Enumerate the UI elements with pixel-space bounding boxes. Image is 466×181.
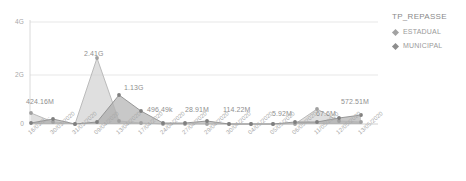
legend-item-estadual[interactable]: ESTADUAL bbox=[392, 28, 466, 35]
data-point-label: 572.51M bbox=[341, 98, 369, 105]
legend-title: TP_REPASSE bbox=[392, 12, 466, 21]
data-point-label: 1.13G bbox=[124, 84, 144, 91]
legend-item-label: ESTADUAL bbox=[403, 28, 441, 35]
diamond-marker-icon bbox=[392, 42, 399, 49]
x-axis-labels: 16/03/2... 30/03/2020 31/03/2020 09/04/2… bbox=[0, 0, 380, 50]
legend-item-label: MUNICIPAL bbox=[403, 42, 442, 49]
plot-area: 4G 2G 0 bbox=[0, 0, 380, 181]
data-point-label: 2.41G bbox=[84, 50, 104, 57]
diamond-marker-icon bbox=[392, 28, 399, 35]
area-chart: 4G 2G 0 bbox=[0, 0, 466, 181]
chart-legend: TP_REPASSE ESTADUAL MUNICIPAL bbox=[392, 12, 466, 56]
legend-item-municipal[interactable]: MUNICIPAL bbox=[392, 42, 466, 49]
data-point-label: 424.16M bbox=[26, 98, 54, 105]
